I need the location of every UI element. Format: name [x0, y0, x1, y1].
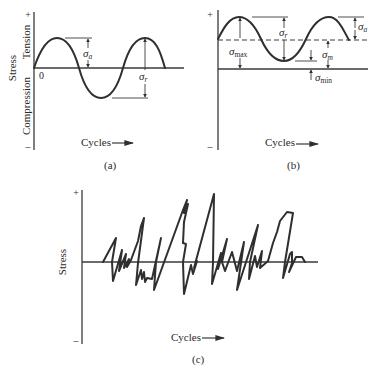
x-axis-label: Cycles: [171, 331, 201, 343]
random-stress-history: [103, 194, 305, 294]
plus-sign: +: [207, 9, 213, 20]
caption-c: (c): [192, 353, 205, 366]
panel-b: + – σmax σr σmin σm σa Cycles (b): [207, 9, 369, 172]
sigma-r-label: σr: [139, 70, 147, 84]
y-axis-label: Stress: [6, 55, 18, 81]
panel-a: + – Stress Tension Compression 0 σa σr C…: [6, 9, 184, 172]
sigma-m-label: σm: [322, 48, 333, 62]
x-axis-label: Cycles: [81, 136, 111, 148]
caption-b: (b): [287, 159, 300, 172]
minus-sign: –: [73, 335, 80, 346]
y-axis-label: Stress: [56, 249, 68, 275]
caption-a: (a): [104, 159, 117, 172]
sigma-r-label: σr: [279, 26, 287, 40]
fatigue-stress-cycles-figure: + – Stress Tension Compression 0 σa σr C…: [0, 0, 376, 376]
minus-sign: –: [207, 141, 214, 152]
panel-c: + – Stress Cycles (c): [56, 187, 318, 366]
compression-label: Compression: [20, 76, 32, 135]
origin-label: 0: [39, 70, 44, 81]
sigma-min-label: σmin: [315, 71, 332, 85]
tension-label: Tension: [20, 24, 32, 59]
sigma-a-label: σa: [83, 47, 92, 61]
x-axis-label: Cycles: [265, 136, 295, 148]
plus-sign: +: [73, 187, 79, 198]
sigma-max-label: σmax: [229, 45, 248, 59]
plus-sign: +: [25, 9, 31, 20]
minus-sign: –: [25, 141, 32, 152]
sigma-a-label: σa: [358, 20, 367, 34]
